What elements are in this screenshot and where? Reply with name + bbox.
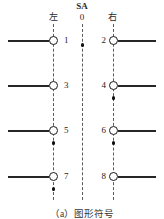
contact-dot-right-below-4: [112, 96, 116, 100]
terminal-label-5: 5: [64, 126, 74, 135]
terminal-node-3: [49, 81, 58, 90]
terminal-label-3: 3: [64, 81, 74, 90]
terminal-node-4: [109, 81, 118, 90]
terminal-node-1: [49, 36, 58, 45]
terminal-label-7: 7: [64, 172, 74, 181]
terminal-node-5: [49, 126, 58, 135]
contact-lead-right-2: [118, 40, 156, 42]
terminal-node-6: [109, 126, 118, 135]
contact-lead-right-8: [118, 176, 156, 178]
terminal-node-7: [49, 172, 58, 181]
contact-lead-left-3: [8, 85, 49, 87]
terminal-label-8: 8: [96, 172, 106, 181]
terminal-label-4: 4: [96, 81, 106, 90]
figure-caption: （a）图形符号: [0, 206, 164, 219]
terminal-label-2: 2: [96, 36, 106, 45]
switch-contact-diagram: 左 SA 0 右 1 2 3 4 5 6 7 8 （a）图形符号: [0, 0, 164, 219]
contact-lead-right-4: [118, 85, 156, 87]
position-label-center: 0: [73, 13, 91, 22]
contact-dot-center-upper: [81, 43, 85, 47]
position-label-left: 左: [46, 13, 60, 22]
contact-dot-right-below-6: [112, 141, 116, 145]
contact-lead-left-7: [8, 176, 49, 178]
contact-lead-right-6: [118, 130, 156, 132]
contact-dot-left-below-7: [52, 187, 56, 191]
contact-dot-left-below-5: [52, 141, 56, 145]
contact-lead-left-5: [8, 130, 49, 132]
contact-lead-left-1: [8, 40, 49, 42]
position-label-right: 右: [105, 13, 119, 22]
terminal-label-6: 6: [96, 126, 106, 135]
switch-designation-label: SA: [73, 2, 91, 11]
terminal-node-8: [109, 172, 118, 181]
terminal-label-1: 1: [64, 36, 74, 45]
dashed-rail-center: [82, 24, 83, 200]
terminal-node-2: [109, 36, 118, 45]
